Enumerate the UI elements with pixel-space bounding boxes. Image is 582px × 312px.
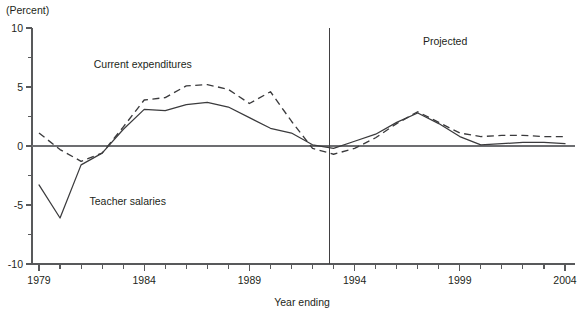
series-label-teacher-salaries: Teacher salaries <box>89 195 165 207</box>
x-axis-title: Year ending <box>274 296 330 308</box>
x-tick-label-1979: 1979 <box>27 274 51 286</box>
x-tick-label-1999: 1999 <box>448 274 472 286</box>
y-axis-major-ticks <box>26 28 32 264</box>
y-axis-unit-label: (Percent) <box>6 4 49 16</box>
y-axis-tick-labels: 1050-5-10 <box>8 22 23 270</box>
y-tick-label--5: -5 <box>14 199 23 211</box>
y-tick-label--10: -10 <box>8 258 23 270</box>
x-axis-major-ticks <box>39 264 565 271</box>
percent-change-line-chart: 1050-5-10 (Percent) 19791984198919941999… <box>0 0 582 312</box>
y-axis-group: 1050-5-10 <box>8 22 32 270</box>
x-axis-minor-ticks <box>60 264 544 269</box>
x-tick-label-1984: 1984 <box>133 274 157 286</box>
chart-container: 1050-5-10 (Percent) 19791984198919941999… <box>0 0 582 312</box>
x-tick-label-1989: 1989 <box>238 274 262 286</box>
y-tick-label-10: 10 <box>11 22 23 34</box>
x-axis-group: 197919841989199419992004 <box>27 264 577 286</box>
chart-annotations: Projected <box>423 35 468 47</box>
y-tick-label-0: 0 <box>17 140 23 152</box>
x-axis-tick-labels: 197919841989199419992004 <box>27 274 577 286</box>
projected-label: Projected <box>423 35 468 47</box>
series-inline-labels: Current expendituresTeacher salaries <box>89 58 191 207</box>
x-tick-label-1994: 1994 <box>343 274 367 286</box>
series-label-current-expenditures: Current expenditures <box>94 58 192 70</box>
y-tick-label-5: 5 <box>17 81 23 93</box>
x-tick-label-2004: 2004 <box>553 274 577 286</box>
series-line-current-expenditures <box>39 85 565 162</box>
